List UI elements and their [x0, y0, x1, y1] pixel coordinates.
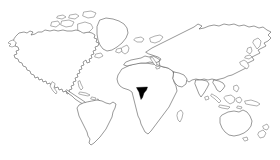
- region-sri-lanka: [205, 96, 209, 100]
- region-victoria-island: [61, 20, 74, 27]
- region-ellesmere-island: [83, 11, 96, 18]
- world-map-canvas: [0, 0, 280, 160]
- world-map-figure: [0, 0, 280, 160]
